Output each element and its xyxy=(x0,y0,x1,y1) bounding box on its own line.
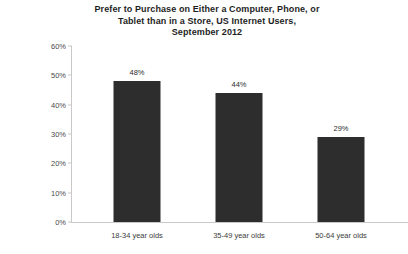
x-tick-label-35-49: 35-49 year olds xyxy=(213,231,265,240)
x-tick-label-50-64: 50-64 year olds xyxy=(315,231,367,240)
y-tick-mark-60 xyxy=(68,46,72,47)
y-tick-label-40: 40% xyxy=(30,100,66,109)
bar-value-50-64: 29% xyxy=(333,124,348,133)
bar-50-64[interactable] xyxy=(318,137,365,222)
y-tick-label-20: 20% xyxy=(30,159,66,168)
plot-area: 0% 10% 20% 30% 40% 50% 60% 48% 18-34 yea… xyxy=(72,46,390,222)
chart-title: Prefer to Purchase on Either a Computer,… xyxy=(52,4,362,39)
y-tick-label-30: 30% xyxy=(30,130,66,139)
y-tick-mark-20 xyxy=(68,163,72,164)
bar-slot-1: 44% 35-49 year olds xyxy=(190,46,288,222)
bar-slot-0: 48% 18-34 year olds xyxy=(88,46,186,222)
bar-value-18-34: 48% xyxy=(129,68,144,77)
bar-18-34[interactable] xyxy=(114,81,161,222)
y-tick-mark-50 xyxy=(68,75,72,76)
y-tick-mark-10 xyxy=(68,192,72,193)
y-tick-mark-30 xyxy=(68,134,72,135)
y-tick-label-0: 0% xyxy=(30,218,66,227)
y-tick-label-10: 10% xyxy=(30,188,66,197)
y-tick-label-50: 50% xyxy=(30,71,66,80)
chart-title-line-1: Prefer to Purchase on Either a Computer,… xyxy=(52,4,362,16)
bar-slot-2: 29% 50-64 year olds xyxy=(292,46,390,222)
x-tick-label-18-34: 18-34 year olds xyxy=(111,231,163,240)
chart-title-line-3: September 2012 xyxy=(52,27,362,39)
bar-35-49[interactable] xyxy=(216,93,263,222)
y-tick-mark-40 xyxy=(68,104,72,105)
x-axis-line xyxy=(71,222,408,223)
chart-title-line-2: Tablet than in a Store, US Internet User… xyxy=(52,16,362,28)
bar-value-35-49: 44% xyxy=(231,80,246,89)
y-tick-mark-0 xyxy=(68,222,72,223)
y-tick-label-60: 60% xyxy=(30,42,66,51)
